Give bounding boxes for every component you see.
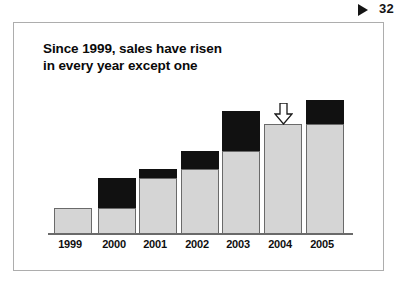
bar-increment-2005 xyxy=(306,100,344,124)
x-axis-line xyxy=(48,233,353,235)
bar-group-2001[interactable] xyxy=(139,169,177,233)
bar-group-1999[interactable] xyxy=(54,208,92,233)
bar-base-2003 xyxy=(222,151,260,233)
slide-number: 32 xyxy=(379,1,394,17)
x-label-2005: 2005 xyxy=(300,238,344,250)
chart-title: Since 1999, sales have risen in every ye… xyxy=(43,40,343,74)
bar-group-2000[interactable] xyxy=(98,178,136,233)
bar-increment-2002 xyxy=(181,151,219,169)
bar-increment-2000 xyxy=(98,178,136,208)
bar-base-1999 xyxy=(54,208,92,233)
bar-base-2001 xyxy=(139,178,177,233)
bar-increment-2001 xyxy=(139,169,177,178)
play-triangle-icon xyxy=(358,4,368,16)
bar-increment-2003 xyxy=(222,111,260,151)
bar-group-2003[interactable] xyxy=(222,111,260,233)
x-label-1999: 1999 xyxy=(48,238,92,250)
x-axis-labels: 1999 2000 2001 2002 2003 2004 2005 xyxy=(48,238,354,254)
bar-base-2005 xyxy=(306,124,344,233)
bar-group-2004[interactable] xyxy=(264,124,302,233)
x-label-2003: 2003 xyxy=(216,238,260,250)
bar-base-2004 xyxy=(264,124,302,233)
arrow-down-icon xyxy=(274,103,293,125)
bar-base-2000 xyxy=(98,208,136,233)
bar-group-2005[interactable] xyxy=(306,100,344,233)
bar-group-2002[interactable] xyxy=(181,151,219,233)
bar-base-2002 xyxy=(181,169,219,233)
slide-header: 32 xyxy=(0,0,399,20)
x-label-2001: 2001 xyxy=(133,238,177,250)
x-label-2002: 2002 xyxy=(175,238,219,250)
x-label-2004: 2004 xyxy=(258,238,302,250)
x-label-2000: 2000 xyxy=(92,238,136,250)
bar-chart-plot-area xyxy=(48,90,354,235)
